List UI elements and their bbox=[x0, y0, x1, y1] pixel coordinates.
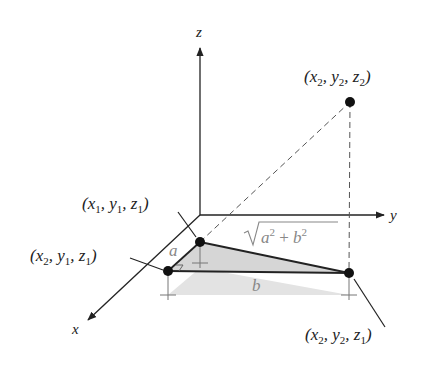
dashed-vertical bbox=[349, 102, 350, 273]
label-p1: (x1, y1, z1) bbox=[82, 194, 149, 215]
label-a: a bbox=[169, 241, 178, 260]
x-axis-label: x bbox=[71, 321, 79, 337]
point-p1 bbox=[195, 237, 205, 247]
label-hypotenuse: a2 + b2 bbox=[244, 222, 338, 247]
label-q: (x2, y1, z1) bbox=[30, 246, 97, 267]
distance-diagram: z y x (x2, y2, z2) (x1, y1, z1) (x2, y1,… bbox=[0, 0, 432, 369]
dashed-diagonal bbox=[200, 102, 350, 242]
point-r bbox=[344, 268, 354, 278]
leader-q bbox=[130, 258, 163, 270]
label-r: (x2, y2, z1) bbox=[305, 325, 372, 346]
svg-text:a2 + b2: a2 + b2 bbox=[261, 226, 307, 247]
y-axis-label: y bbox=[388, 207, 397, 223]
point-q bbox=[163, 266, 173, 276]
leader-r bbox=[354, 279, 385, 327]
label-b: b bbox=[252, 276, 261, 295]
z-axis-label: z bbox=[195, 24, 202, 40]
label-p2: (x2, y2, z2) bbox=[304, 67, 371, 88]
point-p2 bbox=[345, 97, 355, 107]
